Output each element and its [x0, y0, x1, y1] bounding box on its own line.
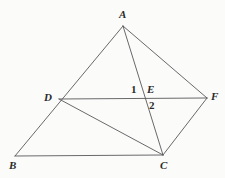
vertex-label-C: C	[160, 160, 167, 171]
angle-label-2: 2	[149, 100, 155, 111]
geometry-figure: A B C D E F 1 2	[0, 0, 225, 178]
vertex-label-F: F	[211, 91, 218, 102]
vertex-label-B: B	[9, 160, 16, 171]
segment-DC	[59, 99, 163, 155]
segment-BC	[15, 155, 163, 156]
vertex-label-E: E	[147, 84, 154, 95]
segment-AC	[123, 26, 163, 155]
vertex-label-D: D	[44, 92, 52, 103]
segment-DF	[59, 98, 207, 99]
vertex-label-A: A	[119, 9, 126, 20]
segment-AB	[15, 26, 123, 156]
figure-canvas	[0, 0, 225, 178]
segment-CF	[163, 98, 207, 155]
angle-label-1: 1	[131, 84, 137, 95]
